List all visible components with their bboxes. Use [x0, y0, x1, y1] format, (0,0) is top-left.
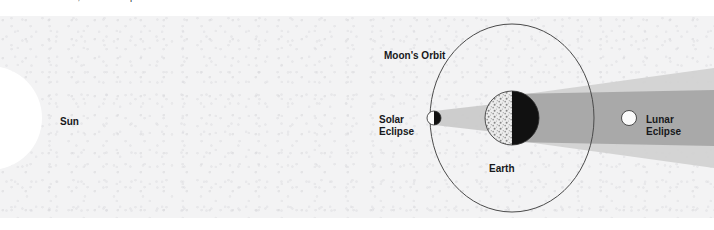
- label-solar-eclipse: Solar Eclipse: [379, 114, 414, 138]
- label-moons-orbit: Moon's Orbit: [384, 50, 445, 62]
- full-moon-body: [622, 111, 637, 126]
- label-lunar-eclipse: Lunar Eclipse: [646, 114, 681, 138]
- earth-umbra: [512, 90, 714, 146]
- illustration-panel: Sun Moon's Orbit Solar Eclipse Lunar Ecl…: [0, 16, 714, 218]
- label-earth: Earth: [489, 163, 515, 175]
- sun-body: [0, 66, 42, 170]
- label-sun: Sun: [60, 116, 79, 128]
- figure-caption: at new moon; a lunar eclipse at full moo…: [22, 0, 442, 3]
- eclipse-diagram-page: at new moon; a lunar eclipse at full moo…: [0, 0, 714, 230]
- eclipse-scene: [0, 16, 714, 218]
